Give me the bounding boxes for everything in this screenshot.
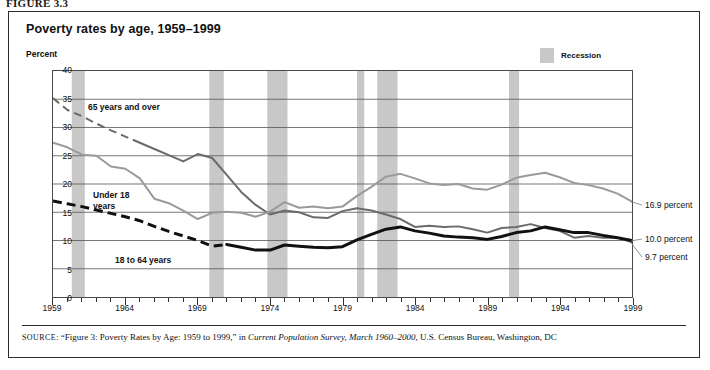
recession-swatch-icon: [540, 48, 554, 63]
source-text-2: , U.S. Census Bureau, Washington, DC: [416, 332, 557, 342]
x-tick-mark-1996: [589, 298, 590, 302]
x-tick-mark-1981: [372, 298, 373, 302]
legend-label-recession: Recession: [561, 51, 601, 60]
y-tick-label-30: 30: [32, 122, 72, 132]
x-tick-mark-1966: [154, 298, 155, 302]
y-tick-label-10: 10: [32, 236, 72, 246]
x-tick-label-1964: 1964: [115, 303, 134, 313]
y-tick-label-20: 20: [32, 179, 72, 189]
x-tick-label-1999: 1999: [624, 303, 643, 313]
x-tick-mark-1991: [517, 298, 518, 302]
chart-title: Poverty rates by age, 1959–1999: [26, 22, 221, 36]
source-publication: Current Population Survey, March 1960–20…: [248, 332, 416, 342]
x-tick-mark-1983: [401, 298, 402, 302]
x-tick-mark-1961: [81, 298, 82, 302]
x-tick-mark-1995: [575, 298, 576, 302]
x-tick-label-1969: 1969: [188, 303, 207, 313]
x-tick-mark-1997: [604, 298, 605, 302]
x-tick-mark-1968: [183, 298, 184, 302]
y-axis-title: Percent: [26, 49, 57, 59]
source-note: SOURCE: “Figure 3: Poverty Rates by Age:…: [22, 331, 690, 344]
x-tick-mark-1963: [110, 298, 111, 302]
source-prefix: SOURCE: [22, 333, 56, 342]
series-line-1: [53, 143, 632, 219]
x-tick-mark-1982: [386, 298, 387, 302]
x-tick-label-1989: 1989: [478, 303, 497, 313]
x-tick-mark-1967: [168, 298, 169, 302]
x-tick-label-1959: 1959: [43, 303, 62, 313]
chart-legend: Recession: [540, 48, 601, 63]
x-tick-mark-1993: [546, 298, 547, 302]
x-tick-mark-1988: [473, 298, 474, 302]
x-tick-mark-1973: [255, 298, 256, 302]
x-tick-label-1979: 1979: [333, 303, 352, 313]
source-divider: [22, 325, 686, 326]
x-tick-label-1984: 1984: [406, 303, 425, 313]
end-label-18-to-64: 10.0 percent: [645, 234, 692, 244]
x-tick-mark-1986: [444, 298, 445, 302]
figure-number-label: FIGURE 3.3: [6, 0, 68, 9]
x-tick-mark-1990: [502, 298, 503, 302]
end-label-under-18: 16.9 percent: [645, 200, 692, 210]
source-text-1: : “Figure 3: Poverty Rates by Age: 1959 …: [56, 332, 248, 342]
x-tick-mark-1978: [328, 298, 329, 302]
x-tick-label-1974: 1974: [260, 303, 279, 313]
x-tick-mark-1970: [212, 298, 213, 302]
label-18-to-64: 18 to 64 years: [115, 255, 171, 266]
x-tick-mark-1992: [531, 298, 532, 302]
x-tick-mark-1962: [96, 298, 97, 302]
x-tick-mark-1975: [284, 298, 285, 302]
end-label-65-over: 9.7 percent: [645, 252, 688, 262]
label-under-18: Under 18 years: [93, 190, 129, 212]
y-tick-label-40: 40: [32, 65, 72, 75]
x-tick-mark-1972: [241, 298, 242, 302]
y-tick-label-5: 5: [32, 265, 72, 275]
x-tick-mark-1977: [313, 298, 314, 302]
x-tick-mark-1976: [299, 298, 300, 302]
label-65-and-over: 65 years and over: [88, 102, 160, 113]
x-tick-mark-1980: [357, 298, 358, 302]
x-tick-mark-1971: [226, 298, 227, 302]
y-tick-label-25: 25: [32, 151, 72, 161]
x-tick-mark-1965: [139, 298, 140, 302]
x-tick-mark-1960: [67, 298, 68, 302]
x-tick-mark-1985: [430, 298, 431, 302]
x-tick-label-1994: 1994: [551, 303, 570, 313]
y-tick-label-15: 15: [32, 208, 72, 218]
x-tick-mark-1987: [459, 298, 460, 302]
y-tick-label-35: 35: [32, 94, 72, 104]
x-tick-mark-1998: [618, 298, 619, 302]
